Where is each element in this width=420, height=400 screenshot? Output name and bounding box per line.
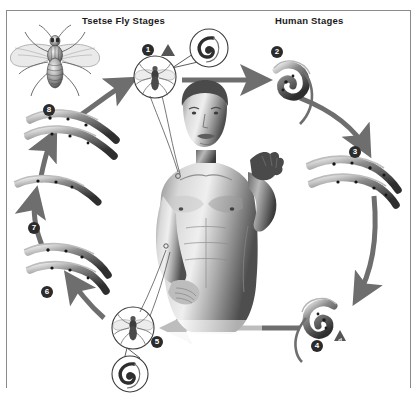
- life-cycle-diagram: Tsetse Fly Stages Human Stages: [0, 0, 420, 400]
- stage-marker-1[interactable]: 1: [142, 44, 154, 56]
- stage-marker-8[interactable]: 8: [43, 104, 55, 116]
- stage-marker-7[interactable]: 7: [28, 222, 40, 234]
- stage-marker-3[interactable]: 3: [349, 146, 361, 158]
- stage-8-dividing-trypomastigotes-icon: [24, 110, 116, 156]
- tsetse-fly-illustration: [10, 25, 99, 96]
- illustrations-layer: [0, 0, 420, 400]
- stage-3-dividing-trypomastigotes-icon: [306, 156, 398, 205]
- infective-stage-triangle-1: [161, 44, 175, 56]
- parasite-callout-spiral-top: [190, 29, 228, 67]
- stage-marker-2[interactable]: 2: [271, 46, 283, 58]
- stage-6-dividing-trypomastigotes-icon: [24, 244, 108, 291]
- human-male-figure-illustration: [156, 80, 284, 346]
- stage-2-trypomastigote-icon: [274, 61, 312, 124]
- stage-marker-4[interactable]: 4: [311, 340, 323, 352]
- stage-marker-6[interactable]: 6: [41, 286, 53, 298]
- diagnostic-stage-letter: d: [334, 337, 346, 343]
- stage-marker-5[interactable]: 5: [151, 336, 163, 348]
- stage-4-trypomastigote-icon: [295, 298, 336, 362]
- parasite-callout-spiral-bottom: [112, 356, 148, 392]
- stage-7-migration-arrow-icon: [14, 176, 98, 202]
